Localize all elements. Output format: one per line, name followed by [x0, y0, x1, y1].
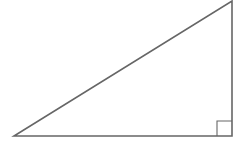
right-angle-marker: [217, 121, 232, 136]
triangle-shape: [14, 1, 232, 136]
right-triangle-diagram: [0, 0, 244, 145]
diagram-canvas: [0, 0, 244, 145]
